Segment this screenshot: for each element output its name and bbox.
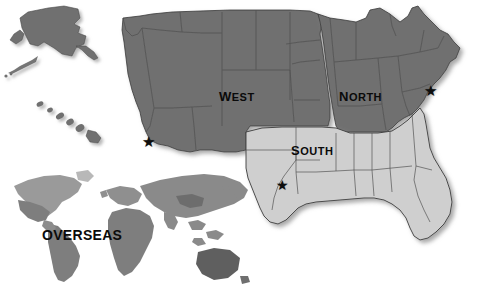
star-icon-north: ★ bbox=[424, 84, 437, 99]
state-alaska bbox=[4, 6, 98, 78]
map-graphic bbox=[0, 0, 493, 295]
tricare-region-map: West North South OVERSEAS ★ ★ ★ Courtesy… bbox=[0, 0, 493, 295]
state-hawaii bbox=[36, 100, 101, 143]
region-label-west: West bbox=[219, 86, 255, 105]
region-north-shape bbox=[318, 6, 460, 132]
region-label-overseas: OVERSEAS bbox=[42, 228, 122, 242]
region-label-north: North bbox=[339, 86, 382, 105]
star-icon-south: ★ bbox=[276, 178, 289, 192]
region-label-south: South bbox=[291, 140, 333, 159]
star-icon-west: ★ bbox=[142, 135, 155, 150]
